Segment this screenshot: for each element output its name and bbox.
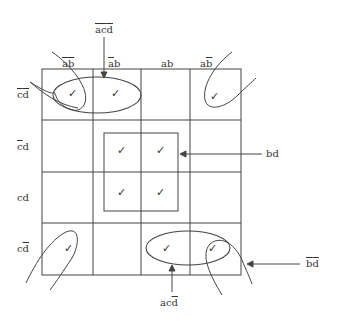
group-label-b-bar-d-bar: bd	[306, 258, 319, 270]
column-label-a-b-bar: ab	[200, 58, 212, 70]
column-label-a-b: ab	[161, 58, 173, 70]
check-r2c3: ✓	[156, 145, 165, 157]
group-acd-dbar-ellipse	[146, 231, 230, 265]
group-label-a-c-d-bar: acd	[160, 297, 178, 309]
check-r3c3: ✓	[156, 187, 165, 199]
row-label-c-bar-d-bar: cd	[17, 89, 29, 101]
check-r4c3: ✓	[162, 243, 171, 255]
group-label-bd: bd	[266, 148, 279, 160]
row-label-c-d: cd	[17, 192, 29, 204]
check-r4c1: ✓	[64, 243, 73, 255]
check-r3c2: ✓	[117, 187, 126, 199]
check-r4c4: ✓	[208, 243, 217, 255]
row-label-c-bar-d: cd	[17, 141, 29, 153]
column-label-a-bar-b: ab	[108, 58, 120, 70]
check-r2c2: ✓	[117, 145, 126, 157]
group-label-a-bar-c-bar-d-bar: acd	[95, 24, 113, 36]
check-r1c4: ✓	[210, 91, 219, 103]
row-label-c-d-bar: cd	[17, 243, 29, 255]
arrows	[101, 37, 300, 292]
karnaugh-map	[0, 0, 338, 321]
check-r1c1: ✓	[68, 88, 77, 100]
column-label-a-bar-b-bar: ab	[62, 58, 74, 70]
check-r1c2: ✓	[111, 88, 120, 100]
